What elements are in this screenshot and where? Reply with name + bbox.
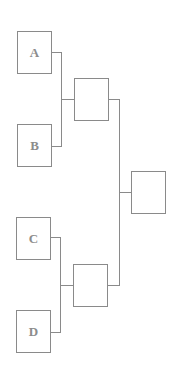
entrant-box-b: B (17, 124, 52, 167)
entrant-label-d: D (29, 324, 38, 340)
entrant-label-a: A (30, 45, 39, 61)
entrant-label-b: B (30, 138, 39, 154)
entrant-box-c: C (16, 217, 51, 260)
entrant-label-c: C (29, 231, 38, 247)
semifinal-box-ab (74, 78, 109, 121)
entrant-box-d: D (16, 310, 51, 353)
entrant-box-a: A (17, 31, 52, 74)
semifinal-box-cd (73, 264, 108, 307)
connector-ab-in (61, 99, 74, 100)
connector-cd-in (60, 285, 73, 286)
final-box (131, 171, 166, 214)
connector-final-in (119, 192, 131, 193)
